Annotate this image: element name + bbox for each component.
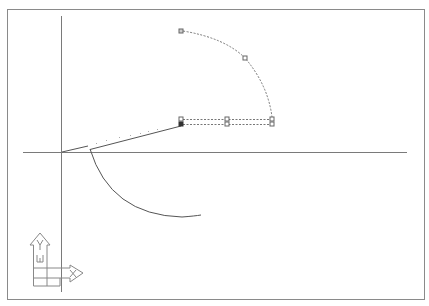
ucs-w-glyph bbox=[37, 255, 43, 262]
grip-rect-mid-top[interactable] bbox=[225, 117, 229, 121]
rubber-band-dots bbox=[96, 129, 158, 144]
drawing-viewport[interactable]: X Y W bbox=[0, 0, 429, 306]
grip-rect-mid-bottom[interactable] bbox=[225, 122, 229, 126]
arc-lower[interactable] bbox=[90, 149, 201, 217]
ucs-box bbox=[34, 268, 61, 286]
selected-preview-geometry[interactable] bbox=[183, 31, 272, 125]
grip-rect-left-top[interactable] bbox=[179, 117, 183, 121]
grip-rect-left-bottom-selected[interactable] bbox=[179, 122, 183, 126]
grips[interactable] bbox=[179, 29, 274, 126]
grip-rect-right-top[interactable] bbox=[270, 117, 274, 121]
arc-upper-preview[interactable] bbox=[183, 31, 272, 117]
line-origin[interactable] bbox=[62, 146, 88, 152]
ucs-icon bbox=[30, 233, 83, 286]
line-to-grip[interactable] bbox=[90, 126, 181, 150]
grip-rect-right-bottom[interactable] bbox=[270, 122, 274, 126]
grip-arc-start[interactable] bbox=[179, 29, 183, 33]
drawn-geometry[interactable] bbox=[62, 126, 201, 217]
ucs-y-arrow bbox=[30, 233, 50, 268]
ucs-y-glyph bbox=[37, 240, 43, 250]
viewport-frame bbox=[8, 10, 425, 300]
ucs-x-arrow bbox=[34, 265, 84, 282]
grip-arc-mid[interactable] bbox=[243, 56, 247, 60]
ucs-x-glyph bbox=[70, 270, 76, 277]
